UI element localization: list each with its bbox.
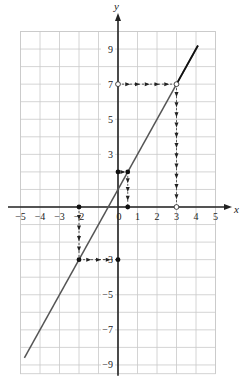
y-axis-arrow-icon bbox=[115, 13, 121, 21]
x-tick-label: −5 bbox=[15, 211, 26, 222]
filled-point bbox=[125, 170, 130, 175]
x-tick-label: 3 bbox=[174, 211, 179, 222]
arrowhead-icon bbox=[120, 170, 125, 174]
arrowhead-icon bbox=[77, 226, 81, 231]
arrowhead-icon bbox=[126, 178, 130, 183]
y-tick-label: 9 bbox=[108, 44, 113, 55]
arrowhead-icon bbox=[126, 196, 130, 201]
data-line bbox=[24, 46, 198, 358]
x-axis-arrow-icon bbox=[224, 204, 232, 210]
y-tick-label: −5 bbox=[102, 289, 113, 300]
y-tick-label: 7 bbox=[108, 79, 113, 90]
x-tick-label: 4 bbox=[194, 211, 199, 222]
function-line bbox=[24, 46, 198, 358]
arrowhead-icon bbox=[175, 112, 179, 117]
y-tick-label: −9 bbox=[102, 359, 113, 370]
arrowhead-icon bbox=[175, 102, 179, 107]
arrowhead-icon bbox=[125, 82, 130, 86]
axes bbox=[8, 13, 232, 376]
arrowhead-icon bbox=[175, 174, 179, 179]
x-axis-label: x bbox=[233, 203, 239, 215]
filled-point bbox=[77, 257, 82, 262]
arrowhead-icon bbox=[77, 236, 81, 241]
arrowhead-icon bbox=[145, 82, 150, 86]
arrowhead-icon bbox=[164, 82, 169, 86]
filled-point bbox=[116, 170, 121, 175]
x-tick-label: 5 bbox=[213, 211, 218, 222]
x-tick-label: −3 bbox=[54, 211, 65, 222]
function-line-upper bbox=[177, 46, 198, 85]
arrowhead-icon bbox=[175, 164, 179, 169]
y-tick-label: 3 bbox=[108, 149, 113, 160]
line-graph: −5−4−3−20123459753−3−5−7−9 x y bbox=[0, 0, 245, 384]
arrowhead-icon bbox=[175, 123, 179, 128]
filled-point bbox=[116, 257, 121, 262]
arrowhead-icon bbox=[175, 143, 179, 148]
arrowhead-icon bbox=[175, 184, 179, 189]
arrowhead-icon bbox=[77, 247, 81, 252]
filled-point bbox=[125, 205, 130, 210]
x-tick-label: 2 bbox=[155, 211, 160, 222]
y-axis-label: y bbox=[113, 0, 119, 12]
x-tick-label: −4 bbox=[35, 211, 46, 222]
arrowhead-icon bbox=[175, 194, 179, 199]
arrowhead-icon bbox=[86, 258, 91, 262]
x-tick-label: 1 bbox=[135, 211, 140, 222]
open-point bbox=[174, 82, 179, 87]
open-point bbox=[174, 205, 179, 210]
open-point bbox=[116, 82, 121, 87]
y-tick-label: −7 bbox=[102, 324, 113, 335]
y-tick-label: 5 bbox=[108, 114, 113, 125]
arrowhead-icon bbox=[175, 92, 179, 97]
filled-point bbox=[77, 205, 82, 210]
arrowhead-icon bbox=[175, 153, 179, 158]
x-tick-label: 0 bbox=[117, 211, 122, 222]
